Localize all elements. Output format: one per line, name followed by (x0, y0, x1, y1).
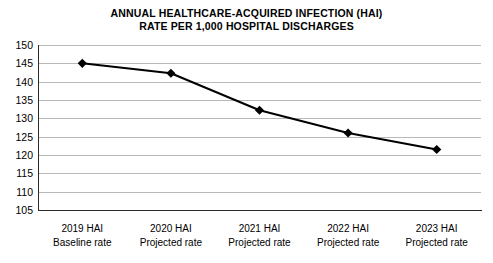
x-axis-category-label: 2019 HAIBaseline rate (53, 222, 111, 249)
x-axis-label-rate-type: Projected rate (406, 236, 468, 250)
data-point-marker (78, 59, 87, 68)
x-axis-label-year: 2023 HAI (406, 222, 468, 236)
x-axis-label-rate-type: Projected rate (317, 236, 379, 250)
x-axis-label-rate-type: Baseline rate (53, 236, 111, 250)
x-axis-category-label: 2020 HAIProjected rate (140, 222, 202, 249)
x-axis-category-label: 2022 HAIProjected rate (317, 222, 379, 249)
data-point-marker (344, 128, 353, 137)
x-axis-label-rate-type: Projected rate (228, 236, 290, 250)
x-axis-category-label: 2021 HAIProjected rate (228, 222, 290, 249)
x-axis-label-year: 2021 HAI (228, 222, 290, 236)
chart-container: ANNUAL HEALTHCARE-ACQUIRED INFECTION (HA… (0, 0, 493, 263)
x-axis-label-rate-type: Projected rate (140, 236, 202, 250)
x-axis-category-label: 2023 HAIProjected rate (406, 222, 468, 249)
data-point-marker (432, 145, 441, 154)
x-axis-label-year: 2019 HAI (53, 222, 111, 236)
data-point-marker (255, 106, 264, 115)
x-axis-category-labels: 2019 HAIBaseline rate2020 HAIProjected r… (38, 222, 481, 256)
x-axis-label-year: 2020 HAI (140, 222, 202, 236)
data-point-marker (166, 69, 175, 78)
x-axis-label-year: 2022 HAI (317, 222, 379, 236)
